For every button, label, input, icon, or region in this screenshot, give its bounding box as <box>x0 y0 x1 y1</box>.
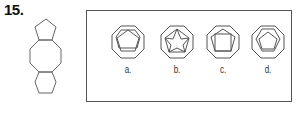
option-label: b. <box>161 64 193 75</box>
option-label: c. <box>207 64 239 75</box>
option-d-figure <box>250 24 286 60</box>
option-a[interactable]: a. <box>108 24 148 75</box>
option-b-figure <box>159 24 195 60</box>
option-d[interactable]: d. <box>248 24 288 75</box>
option-c-figure <box>205 24 241 60</box>
octagon-icon <box>30 40 61 72</box>
star-icon <box>165 29 189 52</box>
pentagon-icon <box>35 19 56 40</box>
stem-figure <box>0 0 86 115</box>
option-label: a. <box>112 64 144 75</box>
option-c[interactable]: c. <box>203 24 243 75</box>
option-a-figure <box>110 24 146 60</box>
square-icon <box>215 34 231 51</box>
hexagon-icon <box>35 72 56 93</box>
option-label: d. <box>252 64 284 75</box>
option-b[interactable]: b. <box>157 24 197 75</box>
